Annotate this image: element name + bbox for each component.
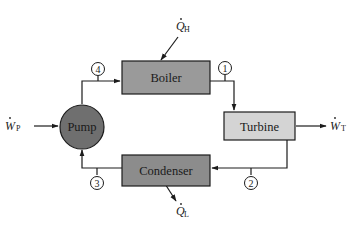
state-point-1: 1 [219, 62, 232, 75]
work-pump-label: W P [5, 117, 21, 133]
rankine-cycle-diagram: Boiler Turbine Condenser Pump 4 1 2 3 Q … [0, 0, 363, 229]
svg-text:H: H [184, 25, 190, 34]
pipe-pump-to-boiler [82, 81, 120, 104]
pipe-boiler-to-turbine [210, 81, 234, 110]
state-point-4: 4 [92, 63, 105, 76]
svg-text:L: L [184, 210, 189, 219]
heat-in-label: Q H [176, 18, 190, 34]
pipe-turbine-to-condenser [212, 140, 287, 168]
svg-text:P: P [16, 124, 21, 133]
heat-in-arrow [161, 37, 178, 60]
svg-text:T: T [341, 124, 346, 133]
pump: Pump [60, 105, 104, 149]
svg-text:2: 2 [249, 178, 254, 189]
svg-text:W: W [5, 119, 16, 133]
boiler-label: Boiler [150, 71, 182, 85]
work-turbine-label: W T [330, 117, 346, 133]
svg-text:1: 1 [223, 63, 228, 74]
heat-out-label: Q L [176, 203, 189, 219]
svg-text:4: 4 [96, 64, 101, 75]
svg-text:W: W [330, 119, 341, 133]
svg-text:3: 3 [95, 178, 100, 189]
pipe-condenser-to-pump [82, 150, 122, 168]
turbine: Turbine [224, 112, 295, 140]
state-point-3: 3 [91, 177, 104, 190]
pump-label: Pump [67, 120, 96, 134]
state-point-2: 2 [245, 177, 258, 190]
boiler: Boiler [122, 61, 210, 94]
condenser: Condenser [122, 155, 210, 186]
condenser-label: Condenser [139, 164, 193, 178]
turbine-label: Turbine [240, 120, 280, 134]
